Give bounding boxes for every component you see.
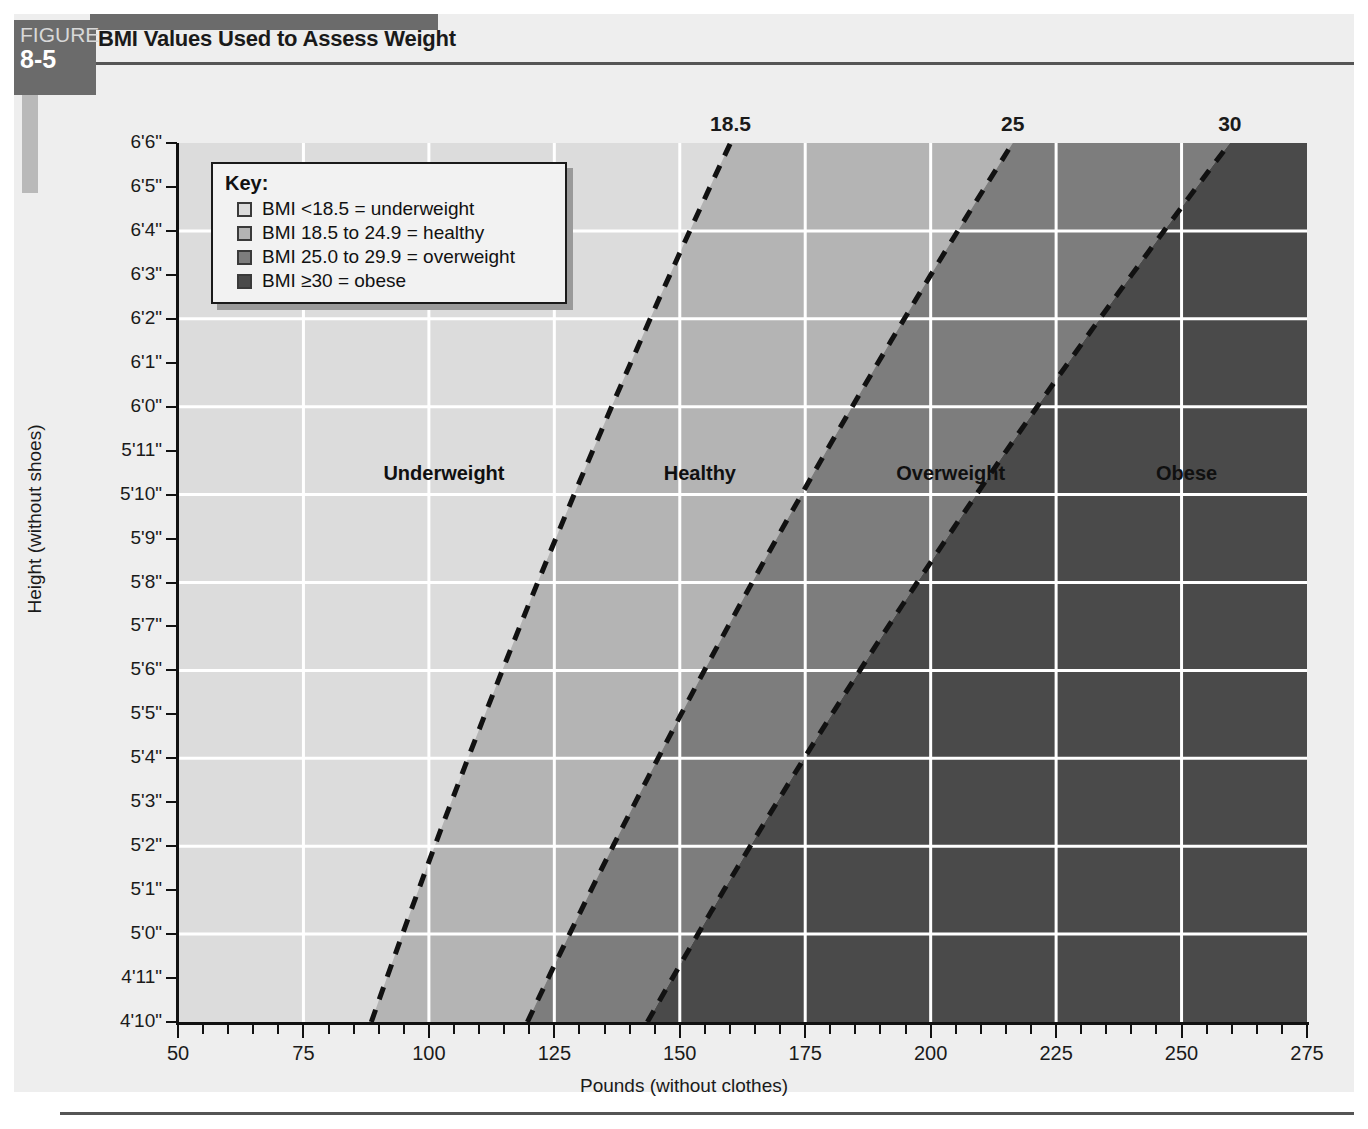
y-axis-tick — [166, 582, 177, 584]
x-axis-tick-minor — [905, 1025, 907, 1034]
bmi-boundary-label-25: 25 — [1001, 112, 1024, 136]
y-axis-tick — [166, 625, 177, 627]
x-axis-tick-major — [1306, 1025, 1308, 1038]
x-axis-tick-minor — [729, 1025, 731, 1034]
x-axis-tick-minor — [629, 1025, 631, 1034]
y-axis-label: 5'1" — [130, 878, 162, 900]
key-row: BMI 18.5 to 24.9 = healthy — [237, 221, 555, 245]
x-axis-tick-minor — [252, 1025, 254, 1034]
y-axis-tick — [166, 889, 177, 891]
y-axis-tick — [166, 538, 177, 540]
y-axis-label: 5'2" — [130, 834, 162, 856]
y-axis-label: 4'10" — [120, 1010, 162, 1032]
y-axis-label: 6'3" — [130, 263, 162, 285]
y-axis-label: 5'0" — [130, 922, 162, 944]
y-axis-tick — [166, 845, 177, 847]
key-swatch-icon — [237, 250, 252, 265]
x-axis-tick-minor — [879, 1025, 881, 1034]
x-axis-tick-major — [679, 1025, 681, 1038]
x-axis-tick-major — [930, 1025, 932, 1038]
x-axis-tick-minor — [1105, 1025, 1107, 1034]
x-axis-label: 175 — [789, 1042, 822, 1065]
x-axis-tick-minor — [378, 1025, 380, 1034]
x-axis-tick-minor — [277, 1025, 279, 1034]
x-axis-tick-minor — [578, 1025, 580, 1034]
x-axis-tick-minor — [1005, 1025, 1007, 1034]
y-axis-tick — [166, 1021, 177, 1023]
figure-page: FIGURE 8-5 BMI Values Used to Assess Wei… — [0, 0, 1368, 1129]
y-axis-tick — [166, 318, 177, 320]
x-axis-tick-minor — [1281, 1025, 1283, 1034]
x-axis-label: 100 — [412, 1042, 445, 1065]
x-axis-tick-minor — [328, 1025, 330, 1034]
x-axis-tick-minor — [779, 1025, 781, 1034]
x-axis-tick-minor — [1256, 1025, 1258, 1034]
y-axis-tick — [166, 713, 177, 715]
x-axis-tick-minor — [704, 1025, 706, 1034]
key-rows: BMI <18.5 = underweightBMI 18.5 to 24.9 … — [225, 197, 555, 293]
x-axis-tick-minor — [854, 1025, 856, 1034]
x-axis-tick-major — [1055, 1025, 1057, 1038]
key-row: BMI ≥30 = obese — [237, 269, 555, 293]
x-axis-tick-minor — [403, 1025, 405, 1034]
region-label-overweight: Overweight — [896, 462, 1005, 485]
x-axis-label: 200 — [914, 1042, 947, 1065]
x-axis-tick-minor — [754, 1025, 756, 1034]
x-axis-label: 275 — [1290, 1042, 1323, 1065]
x-axis-tick-major — [428, 1025, 430, 1038]
key-title: Key: — [225, 172, 555, 194]
key-swatch-icon — [237, 226, 252, 241]
x-axis-tick-minor — [202, 1025, 204, 1034]
x-axis-tick-major — [804, 1025, 806, 1038]
y-axis-label: 6'0" — [130, 395, 162, 417]
key-label: BMI 18.5 to 24.9 = healthy — [262, 223, 484, 243]
y-axis-label: 5'5" — [130, 702, 162, 724]
bmi-boundary-label-18.5: 18.5 — [710, 112, 751, 136]
x-axis-label: 150 — [663, 1042, 696, 1065]
x-axis-tick-minor — [829, 1025, 831, 1034]
y-axis-label: 6'1" — [130, 351, 162, 373]
x-axis-tick-minor — [1155, 1025, 1157, 1034]
region-label-healthy: Healthy — [664, 462, 736, 485]
key-label: BMI <18.5 = underweight — [262, 199, 474, 219]
x-axis-label: 250 — [1165, 1042, 1198, 1065]
key-row: BMI <18.5 = underweight — [237, 197, 555, 221]
x-axis-tick-minor — [1206, 1025, 1208, 1034]
y-axis-tick — [166, 362, 177, 364]
x-axis-tick-minor — [503, 1025, 505, 1034]
x-axis-tick-minor — [528, 1025, 530, 1034]
x-axis-tick-minor — [1080, 1025, 1082, 1034]
y-axis-title: Height (without shoes) — [24, 349, 46, 689]
y-axis-label: 6'2" — [130, 307, 162, 329]
y-axis-tick — [166, 406, 177, 408]
x-axis-label: 75 — [292, 1042, 314, 1065]
x-axis-tick-minor — [478, 1025, 480, 1034]
y-axis-tick — [166, 977, 177, 979]
y-axis-label: 5'11" — [121, 439, 162, 461]
key-row: BMI 25.0 to 29.9 = overweight — [237, 245, 555, 269]
x-axis-tick-major — [1181, 1025, 1183, 1038]
x-axis-label: 125 — [538, 1042, 571, 1065]
region-label-underweight: Underweight — [383, 462, 504, 485]
x-axis-tick-minor — [1130, 1025, 1132, 1034]
x-axis-tick-minor — [955, 1025, 957, 1034]
x-axis-label: 225 — [1039, 1042, 1072, 1065]
x-axis-tick-minor — [353, 1025, 355, 1034]
y-axis-tick — [166, 933, 177, 935]
x-axis-tick-major — [177, 1025, 179, 1038]
x-axis-title: Pounds (without clothes) — [0, 1075, 1368, 1097]
y-axis-tick — [166, 757, 177, 759]
x-axis-tick-minor — [980, 1025, 982, 1034]
x-axis-tick-major — [302, 1025, 304, 1038]
key-label: BMI 25.0 to 29.9 = overweight — [262, 247, 515, 267]
key-swatch-icon — [237, 202, 252, 217]
region-label-obese: Obese — [1156, 462, 1217, 485]
key-label: BMI ≥30 = obese — [262, 271, 406, 291]
y-axis-label: 4'11" — [121, 966, 162, 988]
x-axis-tick-minor — [604, 1025, 606, 1034]
x-axis-tick-minor — [1231, 1025, 1233, 1034]
y-axis-label: 5'4" — [130, 746, 162, 768]
y-axis-label: 5'6" — [130, 658, 162, 680]
y-axis-label: 5'7" — [130, 614, 162, 636]
y-axis-label: 5'3" — [130, 790, 162, 812]
